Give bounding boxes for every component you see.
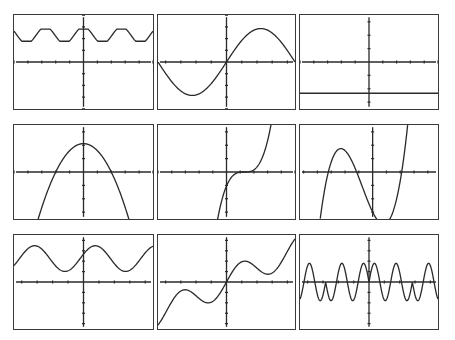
graph-panel-r3c3 bbox=[299, 234, 439, 330]
graph-panel-r1c3 bbox=[299, 14, 439, 110]
graph-panel-r2c3 bbox=[299, 124, 439, 220]
graph-panel-r3c1 bbox=[13, 234, 154, 330]
graph-panel-r2c2 bbox=[157, 124, 296, 220]
graph-panel-r1c1 bbox=[13, 14, 154, 110]
graph-panel-r2c1 bbox=[13, 124, 154, 220]
graph-panel-r1c2 bbox=[157, 14, 296, 110]
graph-panel-r3c2 bbox=[157, 234, 296, 330]
